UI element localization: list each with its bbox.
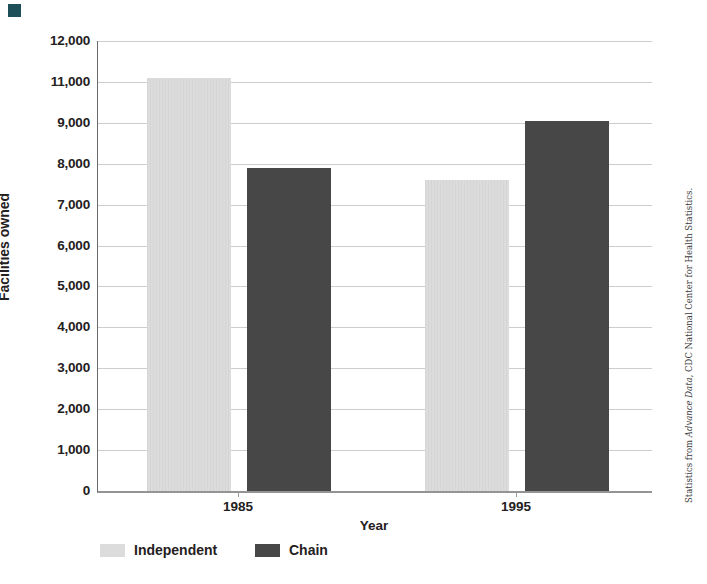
bar-independent-1995 (425, 180, 509, 491)
y-tick-label: 7,000 (0, 197, 90, 213)
legend-item-independent: Independent (100, 541, 217, 559)
y-tick-label: 5,000 (0, 278, 90, 294)
x-axis-title: Year (334, 518, 414, 533)
x-axis-tick (516, 491, 517, 497)
y-tick-label: 1,000 (0, 442, 90, 458)
y-tick-label: 2,000 (0, 401, 90, 417)
legend-swatch-independent (100, 544, 125, 557)
y-tick-label: 12,000 (0, 33, 90, 49)
source-credit: Statistics from Advance Data, CDC Nation… (683, 203, 695, 503)
y-tick-label: 9,000 (0, 115, 90, 131)
bar-chain-1995 (525, 121, 609, 491)
y-tick-label: 0 (0, 483, 90, 499)
y-tick-label: 3,000 (0, 360, 90, 376)
legend-swatch-chain (255, 544, 280, 557)
y-tick-label: 6,000 (0, 238, 90, 254)
category-label-1995: 1995 (481, 499, 551, 514)
figure: Facilities owned 12,00011,0009,0008,0007… (0, 0, 707, 584)
legend-label-chain: Chain (289, 542, 328, 558)
y-tick-label: 4,000 (0, 319, 90, 335)
y-tick-label: 11,000 (0, 74, 90, 90)
plot-area (97, 41, 652, 493)
x-axis-tick (238, 491, 239, 497)
legend: Independent Chain (0, 541, 707, 561)
page-corner-marker (8, 4, 21, 17)
source-credit-publication: Advance Data (684, 377, 694, 437)
category-label-1985: 1985 (203, 499, 273, 514)
legend-item-chain: Chain (255, 541, 328, 559)
source-credit-prefix: Statistics from (684, 437, 694, 503)
source-credit-suffix: , CDC National Center for Health Statist… (684, 188, 694, 377)
y-tick-label: 8,000 (0, 156, 90, 172)
legend-label-independent: Independent (134, 542, 217, 558)
gridline (98, 41, 652, 42)
bar-chain-1985 (247, 168, 331, 491)
bar-independent-1985 (147, 78, 231, 491)
